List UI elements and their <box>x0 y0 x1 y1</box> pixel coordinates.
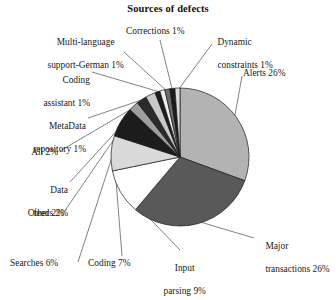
label-all: All 2% <box>6 147 58 158</box>
label-corrections: Corrections 1% <box>126 26 204 37</box>
label-alerts: Alerts 26% <box>243 68 313 79</box>
pie-slices-group <box>111 88 249 226</box>
label-line: Data <box>50 185 68 195</box>
leader-line <box>178 44 212 91</box>
label-line: parsing 9% <box>163 286 205 296</box>
label-data-feeds: Data feeds 2% <box>6 174 68 230</box>
leader-line <box>160 40 173 91</box>
leader-line <box>197 221 254 238</box>
label-line: Coding <box>62 75 90 85</box>
leader-line <box>234 76 242 119</box>
label-other: Other 2% <box>2 208 64 219</box>
label-line: Input <box>175 263 195 273</box>
label-searches: Searches 6% <box>10 258 80 269</box>
label-line: MetaData <box>49 121 86 131</box>
label-line: Dynamic <box>217 37 251 47</box>
label-input-parsing: Input parsing 9% <box>148 252 212 300</box>
label-line: Multi-language <box>57 37 115 47</box>
label-major-transactions: Major transactions 26% <box>256 230 336 286</box>
label-coding: Coding 7% <box>88 258 150 269</box>
label-line: assistant 1% <box>43 98 90 108</box>
label-line: Major <box>265 241 288 251</box>
label-line: transactions 26% <box>265 264 329 274</box>
